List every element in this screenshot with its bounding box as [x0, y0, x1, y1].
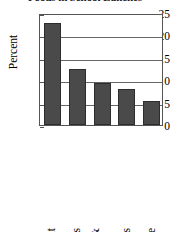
x-tick-label-line: Cake	[145, 228, 157, 232]
chart-title: Foods in School Lunches	[0, 0, 170, 3]
x-tick-label-line: Fruit	[45, 228, 57, 232]
x-tick-label: Cake	[146, 228, 157, 232]
plot-area	[39, 14, 163, 126]
bar	[94, 83, 111, 125]
bar	[118, 89, 135, 125]
x-tick-label-line: Potato chips	[120, 228, 132, 232]
bar	[44, 23, 61, 125]
x-tick-label-line: Cookies	[70, 228, 82, 232]
bar	[69, 69, 86, 125]
x-tick-label: Cookies	[71, 228, 82, 232]
x-tick-label: Peanut butter &jelly sandwich	[90, 228, 113, 232]
x-tick-label: Potato chips	[121, 228, 132, 232]
x-tick-label-line: Peanut butter &	[89, 228, 101, 232]
y-axis-label: Percent	[7, 22, 19, 82]
chart-figure: Foods in School Lunches Percent 05101520…	[0, 0, 170, 232]
x-tick-label: Fruit	[46, 228, 57, 232]
x-axis-tick-labels: FruitCookiesPeanut butter &jelly sandwic…	[39, 128, 163, 232]
bar	[143, 101, 160, 125]
x-tick-label-line: jelly sandwich	[102, 228, 114, 232]
y-tick-mark	[40, 15, 44, 16]
